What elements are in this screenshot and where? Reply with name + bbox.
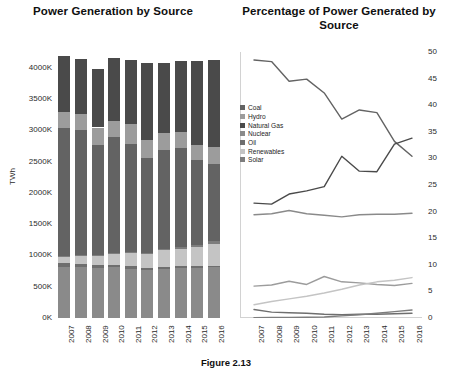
bar-chart-x-tick: 2007	[68, 325, 76, 343]
legend-item-label: Oil	[248, 139, 256, 146]
legend-item[interactable]: Coal	[240, 104, 284, 112]
bar-segment-renewables	[92, 255, 104, 265]
bar-segment-coal	[191, 160, 203, 244]
bar-segment-oil	[108, 265, 120, 268]
bar-chart-x-tick: 2009	[102, 325, 110, 343]
bar-stack[interactable]	[191, 61, 203, 318]
bar-segment-solar	[208, 241, 220, 245]
bar-segment-hydro	[58, 112, 70, 128]
bar-chart-y-tick: 3000K	[8, 126, 52, 134]
legend-item[interactable]: Natural Gas	[240, 121, 284, 129]
bar-segment-solar	[141, 253, 153, 254]
line-chart-plot-area	[240, 52, 422, 318]
bar-segment-nuclear	[208, 267, 220, 318]
legend-swatch-icon	[240, 123, 245, 128]
line-chart-series-svg	[240, 52, 422, 318]
bar-segment-renewables	[75, 255, 87, 264]
line-chart-y-tick: 10	[428, 261, 450, 269]
line-chart-y-tick: 40	[428, 101, 450, 109]
bar-segment-coal	[92, 145, 104, 255]
bar-chart-y-tick: 2500K	[8, 158, 52, 166]
legend-item[interactable]: Renewables	[240, 147, 284, 155]
legend-item[interactable]: Solar	[240, 156, 284, 164]
bar-chart-y-tick: 2000K	[8, 189, 52, 197]
bar-chart-x-tick: 2010	[118, 325, 126, 343]
bar-stack[interactable]	[58, 56, 70, 318]
bar-segment-hydro	[175, 132, 187, 148]
bar-chart-x-tick: 2013	[168, 325, 176, 343]
legend-swatch-icon	[240, 149, 245, 154]
legend-item-label: Solar	[248, 156, 263, 163]
bar-segment-coal	[208, 164, 220, 241]
bar-stack[interactable]	[175, 61, 187, 318]
bar-segment-natural_gas	[208, 60, 220, 147]
bar-stack[interactable]	[92, 69, 104, 318]
bar-stack[interactable]	[158, 63, 170, 318]
legend-item-label: Hydro	[248, 113, 266, 120]
bar-segment-natural_gas	[125, 60, 137, 124]
line-chart-x-tick: 2007	[258, 325, 266, 343]
bar-chart-x-tick: 2016	[218, 325, 226, 343]
bar-chart-y-tick: 4000K	[8, 64, 52, 72]
legend-swatch-icon	[240, 105, 245, 110]
bar-segment-oil	[158, 267, 170, 269]
line-chart-x-tick: 2008	[276, 325, 284, 343]
bar-segment-oil	[208, 266, 220, 268]
legend-swatch-icon	[240, 157, 245, 162]
bar-segment-hydro	[75, 114, 87, 130]
bar-segment-solar	[175, 247, 187, 249]
bar-chart-y-tick: 1000K	[8, 251, 52, 259]
bar-segment-renewables	[191, 247, 203, 266]
bar-segment-renewables	[158, 250, 170, 266]
bar-segment-renewables	[58, 256, 70, 263]
line-chart-x-tick: 2011	[328, 326, 336, 343]
figure-caption: Figure 2.13	[0, 357, 452, 368]
legend-item[interactable]: Hydro	[240, 113, 284, 121]
line-chart-panel: Percentage of Power Generated by Source …	[226, 0, 452, 352]
line-chart-legend: CoalHydroNatural GasNuclearOilRenewables…	[240, 104, 284, 165]
bar-chart-y-tick: 3500K	[8, 95, 52, 103]
bar-stack[interactable]	[75, 59, 87, 318]
line-chart-x-tick: 2014	[381, 325, 389, 343]
legend-item[interactable]: Oil	[240, 139, 284, 147]
bar-stack[interactable]	[208, 60, 220, 318]
legend-item-label: Coal	[248, 104, 262, 111]
bar-segment-renewables	[141, 254, 153, 268]
bar-chart-x-tick: 2014	[185, 325, 193, 343]
bar-stack[interactable]	[141, 63, 153, 318]
bar-segment-natural_gas	[158, 63, 170, 134]
line-chart-y-tick: 30	[428, 154, 450, 162]
legend-swatch-icon	[240, 114, 245, 119]
bar-chart-y-tick: 0K	[8, 314, 52, 322]
line-chart-x-tick: 2012	[346, 325, 354, 343]
bar-segment-oil	[58, 263, 70, 267]
bar-stack[interactable]	[125, 60, 137, 318]
legend-swatch-icon	[240, 140, 245, 145]
figure-container: Power Generation by Source TWh 0K500K100…	[0, 0, 452, 374]
line-chart-y-tick: 5	[428, 287, 450, 295]
line-chart-y-tick: 25	[428, 181, 450, 189]
bar-segment-natural_gas	[191, 61, 203, 145]
bar-chart-x-tick: 2015	[201, 325, 209, 343]
bar-segment-oil	[92, 265, 104, 268]
bar-segment-coal	[141, 158, 153, 253]
bar-segment-coal	[158, 150, 170, 249]
bar-segment-nuclear	[175, 268, 187, 318]
bar-segment-nuclear	[58, 267, 70, 318]
bar-stack[interactable]	[108, 58, 120, 318]
bar-chart-x-tick: 2011	[135, 326, 143, 343]
bar-segment-hydro	[108, 121, 120, 137]
bar-segment-nuclear	[125, 269, 137, 318]
legend-item[interactable]: Nuclear	[240, 130, 284, 138]
bar-segment-hydro	[125, 124, 137, 144]
bar-segment-nuclear	[141, 270, 153, 318]
bar-chart-y-tick: 500K	[8, 283, 52, 291]
bar-chart-x-tick: 2008	[85, 325, 93, 343]
bar-chart-panel: Power Generation by Source TWh 0K500K100…	[0, 0, 226, 352]
bar-segment-nuclear	[92, 268, 104, 318]
bar-chart-x-tick: 2012	[151, 325, 159, 343]
legend-item-label: Renewables	[248, 148, 284, 155]
line-chart-x-tick: 2013	[363, 325, 371, 343]
bar-segment-renewables	[125, 253, 137, 267]
line-chart-x-tick: 2010	[311, 325, 319, 343]
